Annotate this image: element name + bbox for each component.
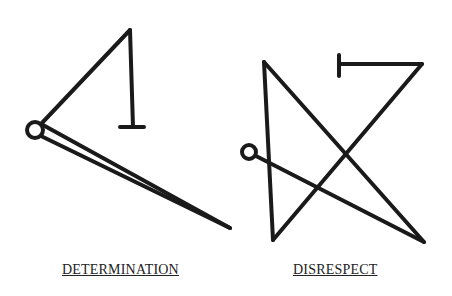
sigil-diagram [0,0,452,296]
determination-label: DETERMINATION [62,262,179,278]
disrespect-label: DISRESPECT [293,262,377,278]
determination-sigil [27,30,230,228]
left-vertical-stroke [264,62,273,240]
apex-to-circle-stroke [41,30,130,124]
disrespect-sigil [242,55,424,242]
start-circle [242,145,256,159]
long-tail-lower-stroke [41,136,230,228]
apex-vertical-stroke [130,30,133,127]
